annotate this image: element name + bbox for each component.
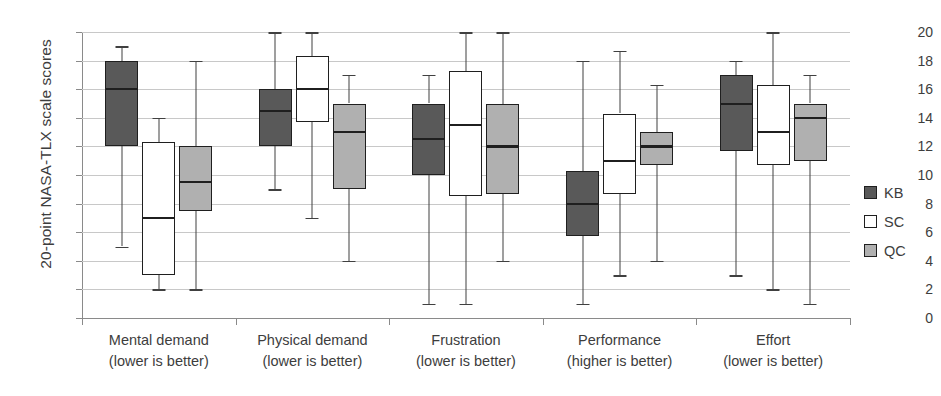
- legend-swatch-qc: [864, 244, 877, 257]
- whisker-cap-lower: [650, 261, 663, 263]
- whisker-upper: [810, 75, 811, 104]
- y-tick-mark-2: [76, 289, 82, 290]
- whisker-cap-lower: [613, 275, 626, 277]
- box-sc-performance: [603, 32, 636, 318]
- median-line: [142, 217, 175, 219]
- box-rect: [486, 104, 519, 194]
- y-tick-label-0: 0: [893, 310, 933, 326]
- box-sc-frustration: [449, 32, 482, 318]
- x-axis-separator: [543, 318, 544, 325]
- whisker-cap-lower: [496, 261, 509, 263]
- box-qc-physical-demand: [333, 32, 366, 318]
- whisker-cap-lower: [189, 289, 202, 291]
- box-rect: [720, 75, 753, 151]
- median-line: [449, 124, 482, 126]
- median-line: [412, 138, 445, 140]
- whisker-cap-upper: [496, 32, 509, 34]
- y-tick-mark-18: [76, 61, 82, 62]
- whisker-cap-upper: [269, 32, 282, 34]
- whisker-upper: [428, 75, 429, 104]
- y-tick-label-20: 20: [893, 24, 933, 40]
- box-rect: [259, 89, 292, 146]
- box-kb-effort: [720, 32, 753, 318]
- y-tick-mark-8: [76, 204, 82, 205]
- whisker-cap-upper: [343, 75, 356, 77]
- whisker-cap-upper: [650, 85, 663, 87]
- median-line: [794, 117, 827, 119]
- whisker-upper: [736, 61, 737, 75]
- whisker-cap-lower: [804, 304, 817, 306]
- whisker-lower: [465, 196, 466, 303]
- x-label-main: Effort: [756, 332, 790, 348]
- box-kb-physical-demand: [259, 32, 292, 318]
- whisker-cap-lower: [730, 275, 743, 277]
- whisker-cap-upper: [767, 32, 780, 34]
- y-tick-label-14: 14: [893, 110, 933, 126]
- whisker-upper: [656, 85, 657, 132]
- x-axis-separator: [850, 318, 851, 325]
- box-rect: [757, 85, 790, 165]
- x-axis-separator: [236, 318, 237, 325]
- whisker-cap-upper: [422, 75, 435, 77]
- box-group-mental-demand: [82, 32, 236, 318]
- box-sc-effort: [757, 32, 790, 318]
- median-line: [640, 145, 673, 147]
- whisker-lower: [736, 151, 737, 275]
- y-tick-mark-4: [76, 261, 82, 262]
- box-qc-effort: [794, 32, 827, 318]
- box-qc-mental-demand: [179, 32, 212, 318]
- x-label-main: Physical demand: [257, 332, 367, 348]
- median-line: [720, 103, 753, 105]
- x-axis-label-effort: Effort(lower is better): [696, 330, 850, 372]
- y-tick-label-16: 16: [893, 81, 933, 97]
- whisker-lower: [428, 175, 429, 304]
- x-axis-label-frustration: Frustration(lower is better): [389, 330, 543, 372]
- legend-swatch-kb: [864, 186, 877, 199]
- whisker-cap-lower: [343, 261, 356, 263]
- whisker-cap-lower: [152, 289, 165, 291]
- median-line: [566, 203, 599, 205]
- legend-swatch-sc: [864, 215, 877, 228]
- box-group-physical-demand: [236, 32, 390, 318]
- whisker-cap-lower: [115, 247, 128, 249]
- x-label-sub: (higher is better): [543, 351, 697, 372]
- y-tick-label-10: 10: [893, 167, 933, 183]
- whisker-cap-lower: [422, 304, 435, 306]
- box-group-effort: [696, 32, 850, 318]
- x-axis-label-mental-demand: Mental demand(lower is better): [82, 330, 236, 372]
- x-label-sub: (lower is better): [236, 351, 390, 372]
- nasa-tlx-box-plot: 20-point NASA-TLX scale scores KBSCQC 02…: [0, 0, 941, 396]
- y-tick-label-4: 4: [893, 253, 933, 269]
- x-axis-label-physical-demand: Physical demand(lower is better): [236, 330, 390, 372]
- whisker-upper: [158, 118, 159, 142]
- x-axis-label-performance: Performance(higher is better): [543, 330, 697, 372]
- y-tick-label-6: 6: [893, 224, 933, 240]
- whisker-cap-lower: [576, 304, 589, 306]
- x-label-main: Frustration: [431, 332, 500, 348]
- y-axis-title: 20-point NASA-TLX scale scores: [37, 4, 55, 304]
- whisker-cap-upper: [459, 32, 472, 34]
- box-kb-mental-demand: [105, 32, 138, 318]
- whisker-cap-lower: [767, 289, 780, 291]
- whisker-cap-upper: [613, 51, 626, 53]
- x-axis-separator: [696, 318, 697, 325]
- box-rect: [794, 104, 827, 161]
- whisker-lower: [773, 165, 774, 289]
- whisker-lower: [312, 122, 313, 218]
- whisker-upper: [275, 32, 276, 89]
- whisker-lower: [275, 146, 276, 189]
- box-rect: [105, 61, 138, 147]
- x-label-sub: (lower is better): [82, 351, 236, 372]
- box-rect: [603, 114, 636, 194]
- median-line: [259, 110, 292, 112]
- x-label-sub: (lower is better): [696, 351, 850, 372]
- median-line: [296, 88, 329, 90]
- y-tick-mark-6: [76, 232, 82, 233]
- whisker-lower: [582, 236, 583, 303]
- whisker-lower: [810, 161, 811, 304]
- y-tick-label-12: 12: [893, 138, 933, 154]
- whisker-cap-upper: [576, 61, 589, 63]
- whisker-upper: [312, 32, 313, 56]
- y-tick-label-2: 2: [893, 281, 933, 297]
- whisker-lower: [158, 275, 159, 289]
